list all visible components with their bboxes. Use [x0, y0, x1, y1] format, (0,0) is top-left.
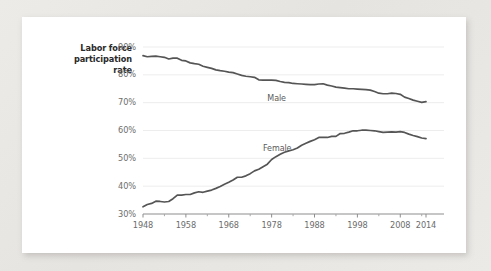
chart-card: Labor force participation rate 90%80%70%… [22, 17, 466, 253]
series-line-female [143, 130, 426, 207]
series-line-male [143, 56, 426, 103]
screenshot-root: Labor force participation rate 90%80%70%… [0, 0, 491, 271]
line-chart-plot [22, 17, 466, 253]
chart-container: Labor force participation rate 90%80%70%… [22, 17, 466, 253]
